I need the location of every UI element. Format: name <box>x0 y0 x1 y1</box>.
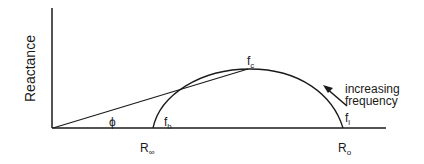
y-axis-label: Reactance <box>22 35 38 102</box>
r-infinity-label: R∞ <box>140 142 154 154</box>
r-zero-label: Ro <box>338 142 351 154</box>
increasing-frequency-annotation: increasing frequency <box>345 83 400 107</box>
fc-label: fc <box>247 55 254 67</box>
phase-line <box>53 69 248 128</box>
fl-label: fl <box>345 112 350 124</box>
fh-label: fh <box>164 116 172 128</box>
semicircle-arc <box>153 69 343 128</box>
phi-label: ϕ <box>109 116 116 128</box>
